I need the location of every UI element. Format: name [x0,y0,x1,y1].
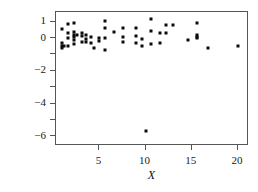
y-axis-tick [50,135,55,136]
scatter-point [72,42,75,45]
scatter-point [63,45,66,48]
x-axis-tick [98,145,99,150]
y-axis-tick-label: −6 [24,130,46,141]
scatter-point [164,24,167,27]
x-axis-tick [145,145,146,150]
scatter-point [85,34,88,37]
y-axis-tick-label: 1 [24,15,46,26]
scatter-point [159,32,162,35]
y-axis-tick [50,103,55,104]
scatter-point [72,30,75,33]
scatter-point [103,20,106,23]
scatter-point [164,32,167,35]
scatter-point [122,41,125,44]
plot-frame [55,11,248,145]
scatter-point [150,17,153,20]
scatter-point [150,30,153,33]
y-axis-tick [50,53,55,54]
x-axis-tick-label: 20 [231,155,242,166]
scatter-point [135,41,138,44]
scatter-point [90,36,93,39]
y-axis-tick [50,37,55,38]
scatter-point [196,22,199,25]
scatter-point [135,27,138,30]
scatter-point [72,22,75,25]
scatter-point [90,42,93,45]
scatter-point [207,46,210,49]
scatter-point [76,33,79,36]
scatter-point [103,48,106,51]
y-axis-tick-label: 0 [24,32,46,43]
scatter-point [159,42,162,45]
scatter-point [144,130,147,133]
scatter-point [172,24,175,27]
scatter-point [92,46,95,49]
scatter-point [140,37,143,40]
scatter-point [85,40,88,43]
x-axis-tick-label: 5 [96,155,102,166]
scatter-point [61,28,64,31]
scatter-point [72,38,75,41]
x-axis-title: X [55,168,248,183]
scatter-point [122,36,125,39]
y-axis-tick-label: −2 [24,64,46,75]
scatter-point [103,36,106,39]
x-axis-tick [237,145,238,150]
scatter-point [67,44,70,47]
scatter-point [98,40,101,43]
scatter-point [103,27,106,30]
y-axis-tick [50,119,55,120]
scatter-point [187,39,190,42]
scatter-point [140,44,143,47]
scatter-point [67,32,70,35]
scatter-point [196,36,199,39]
y-axis-tick [50,21,55,22]
scatter-point [122,27,125,30]
scatter-point [113,31,116,34]
x-axis-tick-label: 15 [185,155,196,166]
x-axis-tick [191,145,192,150]
scatter-point [135,35,138,38]
scatter-points-layer [56,12,247,144]
x-axis-tick-label: 10 [139,155,150,166]
residual-scatter-figure: 10−2−4−6 5101520 Residuals X [0,0,258,192]
y-axis-tick-label: −4 [24,97,46,108]
scatter-point [67,37,70,40]
scatter-point [150,43,153,46]
y-axis-tick [50,70,55,71]
scatter-point [80,35,83,38]
scatter-point [67,22,70,25]
scatter-point [80,41,83,44]
y-axis-tick [50,86,55,87]
scatter-point [236,44,239,47]
